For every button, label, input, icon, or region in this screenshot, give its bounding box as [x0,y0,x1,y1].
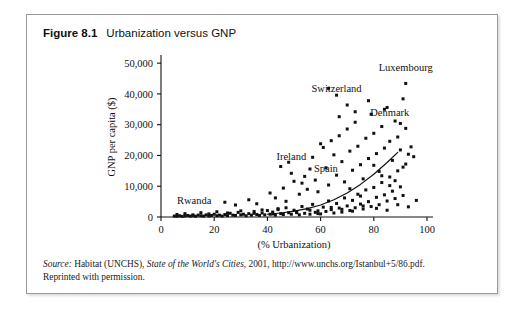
data-point [223,213,226,216]
data-point [263,213,266,216]
data-point [314,179,317,182]
data-point [383,147,386,150]
data-point [399,148,402,151]
x-axis-tick-label: 100 [419,224,435,235]
source-body-post: , 2001, http://www.unchs.org/Istanbul+5/… [244,259,425,269]
data-point [298,213,301,216]
x-axis-tick-label: 20 [209,224,220,235]
data-point [239,213,242,216]
y-axis-tick-label: 0 [148,212,153,223]
figure-caption: Urbanization versus GNP [106,27,236,39]
data-point [277,207,280,210]
data-point [178,214,181,217]
data-point [370,205,373,208]
data-point [367,157,370,160]
country-annotation: Luxembourg [379,62,434,73]
data-point [380,181,383,184]
data-point [322,206,325,209]
data-point [415,199,418,202]
data-point [226,214,229,217]
data-point [346,128,349,131]
data-point [404,127,407,130]
data-point [189,215,192,218]
data-point [402,97,405,100]
data-point [359,203,362,206]
data-point [367,200,370,203]
data-point [316,190,319,193]
y-axis-tick-label: 30,000 [124,119,153,130]
data-point [330,206,333,209]
source-body-pre: Habitat (UNCHS), [72,259,147,269]
data-point [364,137,367,140]
data-point [332,212,335,215]
y-axis-tick-label: 40,000 [124,89,153,100]
data-point [399,185,402,188]
data-point [266,209,269,212]
data-point [367,99,370,102]
data-point [338,115,341,118]
data-point [394,197,397,200]
data-point [175,213,178,216]
data-point [202,215,205,218]
source-permission-line: Reprinted with permission. [43,271,483,284]
data-point [181,215,184,218]
data-point [191,213,194,216]
data-point [316,209,319,212]
data-point [261,208,264,211]
data-point [223,201,226,204]
data-point [308,168,311,171]
data-point [335,202,338,205]
data-point [396,169,399,172]
data-point [255,213,258,216]
data-point [410,145,413,148]
country-annotation: Rwanda [177,195,212,206]
y-axis-title: GNP per capita ($) [106,97,118,177]
data-point [394,120,397,123]
data-point [218,214,221,217]
data-point [356,145,359,148]
data-point [186,214,189,217]
data-point [221,215,224,218]
data-point [173,215,176,218]
figure-number: Figure 8.1 [43,27,97,39]
data-point [234,204,237,207]
data-point [348,150,351,153]
data-point [372,164,375,167]
data-point [319,212,322,215]
data-point [375,196,378,199]
data-point [258,214,261,217]
data-point [372,186,375,189]
data-point [295,211,298,214]
data-point [213,213,216,216]
x-axis-tick-label: 80 [369,224,380,235]
data-point [324,210,327,213]
y-axis-tick-label: 10,000 [124,181,153,192]
data-point [340,208,343,211]
data-point [306,188,309,191]
data-point [348,209,351,212]
x-axis-tick-label: 60 [315,224,326,235]
data-point [282,187,285,190]
data-point [412,155,415,158]
data-point [388,184,391,187]
data-point [226,212,229,215]
data-point [300,205,303,208]
data-point [394,179,397,182]
data-point [351,210,354,213]
data-point [311,156,314,159]
data-point [354,206,357,209]
data-point [380,174,383,177]
data-point [237,211,240,214]
data-point [247,212,250,215]
data-point [303,175,306,178]
data-point [378,203,381,206]
data-point [404,82,407,85]
data-point [335,174,338,177]
data-point [308,213,311,216]
data-point [290,172,293,175]
data-point [407,205,410,208]
data-point [380,125,383,128]
data-point [343,196,346,199]
data-point [332,153,335,156]
data-point [247,198,250,201]
